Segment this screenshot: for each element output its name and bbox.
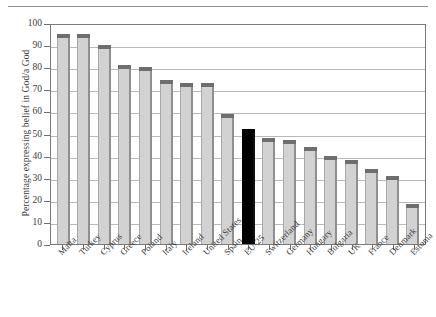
y-axis-tick-label: 0: [2, 240, 42, 250]
bar-slot: [361, 25, 382, 244]
bar-cap: [180, 83, 193, 87]
bar-series: [51, 25, 425, 244]
y-axis-tick-label: 40: [2, 152, 42, 162]
y-axis-tick-label: 20: [2, 196, 42, 206]
bar-slot: [94, 25, 115, 244]
bar-slot: [197, 25, 218, 244]
bar-slot: [53, 25, 74, 244]
plot-area: [50, 24, 426, 245]
bar-body: [242, 132, 255, 244]
bar-cap: [201, 83, 214, 87]
bar-denmark[interactable]: [386, 176, 399, 245]
bar-cap: [262, 138, 275, 142]
bar-slot: [74, 25, 95, 244]
bar-body: [160, 83, 173, 244]
bar-slot: [382, 25, 403, 244]
bar-slot: [279, 25, 300, 244]
y-axis-tick-label: 50: [2, 130, 42, 140]
bar-cap: [57, 34, 70, 38]
bar-switzerland[interactable]: [262, 138, 275, 244]
bar-slot: [320, 25, 341, 244]
bar-cap: [365, 169, 378, 173]
top-divider: [8, 6, 428, 7]
bar-body: [180, 86, 193, 244]
bar-cyprus[interactable]: [98, 45, 111, 244]
bar-body: [262, 141, 275, 244]
bar-cap: [139, 67, 152, 71]
y-axis-tick-label: 90: [2, 41, 42, 51]
bar-malta[interactable]: [57, 34, 70, 244]
bar-slot: [259, 25, 280, 244]
bar-cap: [406, 204, 419, 208]
y-axis-tick: [44, 245, 50, 246]
bar-body: [57, 37, 70, 244]
bar-cap: [221, 114, 234, 118]
bar-france[interactable]: [365, 169, 378, 244]
bar-cap: [118, 65, 131, 69]
bar-italy[interactable]: [160, 80, 173, 244]
y-axis-tick-label: 60: [2, 107, 42, 117]
bar-slot: [218, 25, 239, 244]
bar-united-states[interactable]: [201, 83, 214, 244]
bar-slot: [156, 25, 177, 244]
bar-eu-25[interactable]: [242, 129, 255, 244]
bar-slot: [341, 25, 362, 244]
bar-body: [98, 48, 111, 244]
bar-cap: [242, 129, 255, 133]
bar-cap: [304, 147, 317, 151]
bar-greece[interactable]: [118, 65, 131, 244]
y-axis-tick-label: 70: [2, 85, 42, 95]
bar-slot: [403, 25, 424, 244]
bar-cap: [324, 156, 337, 160]
bar-cap: [283, 140, 296, 144]
bar-slot: [238, 25, 259, 244]
chart-figure: Percentage expressing belief in God/a Go…: [0, 0, 436, 317]
bar-body: [139, 70, 152, 244]
bar-cap: [160, 80, 173, 84]
bar-cap: [386, 176, 399, 180]
x-axis-labels: MaltaTurkeyCyprusGreecePolandItalyIrelan…: [50, 250, 426, 317]
bar-cap: [98, 45, 111, 49]
bar-cap: [77, 34, 90, 38]
bar-slot: [135, 25, 156, 244]
bar-turkey[interactable]: [77, 34, 90, 244]
y-axis-tick-label: 100: [2, 19, 42, 29]
bar-body: [77, 37, 90, 244]
bar-slot: [176, 25, 197, 244]
bar-poland[interactable]: [139, 67, 152, 244]
y-axis-tick-label: 80: [2, 63, 42, 73]
bar-body: [118, 68, 131, 244]
bar-body: [201, 86, 214, 244]
y-axis-tick-label: 30: [2, 174, 42, 184]
y-axis-tick-label: 10: [2, 218, 42, 228]
bar-ireland[interactable]: [180, 83, 193, 244]
bar-cap: [345, 160, 358, 164]
bar-slot: [300, 25, 321, 244]
bar-body: [365, 172, 378, 244]
y-axis-labels: 0102030405060708090100: [0, 0, 42, 317]
bar-body: [386, 179, 399, 245]
bar-slot: [115, 25, 136, 244]
